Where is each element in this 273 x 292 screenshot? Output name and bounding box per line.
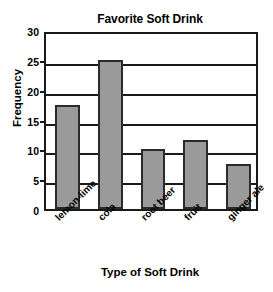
bars-layer — [46, 34, 256, 209]
plot-area — [44, 32, 258, 211]
x-axis-title: Type of Soft Drink — [40, 266, 260, 278]
bar — [98, 60, 123, 209]
y-tick-label: 25 — [27, 56, 39, 68]
y-tick-label: 5 — [33, 175, 39, 187]
bar-chart: Favorite Soft Drink 051015202530 Frequen… — [0, 0, 273, 292]
chart-title: Favorite Soft Drink — [40, 12, 260, 26]
y-tick-label: 20 — [27, 86, 39, 98]
bar — [183, 140, 208, 209]
y-tick-label: 0 — [33, 205, 39, 217]
y-tick-label: 30 — [27, 26, 39, 38]
y-tick-label: 15 — [27, 116, 39, 128]
y-tick-label: 10 — [27, 145, 39, 157]
x-axis: lemon-limecolaroot beerfruitginger ale — [44, 211, 258, 271]
y-axis-title: Frequency — [11, 48, 23, 148]
